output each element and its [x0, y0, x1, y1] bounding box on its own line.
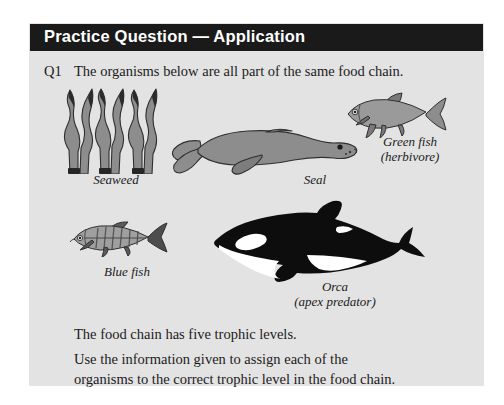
instructions-line-2: Use the information given to assign each…	[74, 349, 444, 369]
orca-sublabel: (apex predator)	[294, 294, 375, 309]
page-root: Practice Question — Application Q1 The o…	[0, 0, 504, 405]
question-text: The organisms below are all part of the …	[74, 63, 404, 80]
question-panel: Practice Question — Application Q1 The o…	[30, 24, 483, 385]
green-fish-illustration	[340, 92, 470, 138]
seal-caption: Seal	[270, 172, 360, 187]
orca-label: Orca	[322, 279, 348, 294]
seal-label: Seal	[304, 172, 326, 187]
blue-fish-caption: Blue fish	[72, 264, 182, 279]
orca-caption: Orca (apex predator)	[260, 279, 410, 309]
orca-illustration	[205, 199, 445, 283]
seaweed-label: Seaweed	[93, 172, 138, 187]
seaweed-caption: Seaweed	[56, 172, 176, 187]
green-fish-label: Green fish	[383, 134, 437, 149]
green-fish-sublabel: (herbivore)	[381, 149, 440, 164]
panel-header-bar: Practice Question — Application	[30, 24, 483, 51]
seaweed-illustration	[56, 88, 176, 174]
instructions-block: The food chain has five trophic levels. …	[74, 324, 444, 389]
green-fish-caption: Green fish (herbivore)	[350, 134, 470, 164]
question-number: Q1	[44, 63, 62, 80]
instructions-line-3: organisms to the correct trophic level i…	[74, 369, 444, 389]
blue-fish-illustration	[68, 219, 188, 257]
instructions-line-1: The food chain has five trophic levels.	[74, 324, 444, 344]
blue-fish-label: Blue fish	[104, 264, 150, 279]
page-title: Practice Question — Application	[44, 27, 305, 46]
